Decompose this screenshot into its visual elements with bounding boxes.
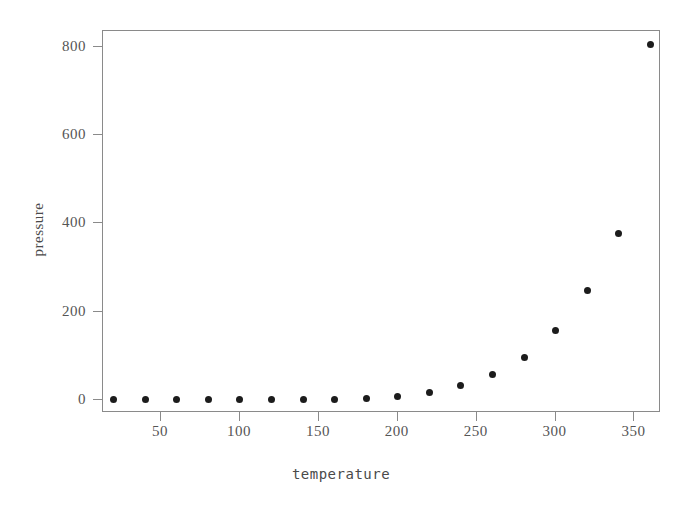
x-axis-tick-mark: [318, 412, 319, 421]
data-points-layer: [103, 31, 659, 411]
y-axis-tick-mark: [93, 46, 102, 47]
x-axis-tick-mark: [239, 412, 240, 421]
x-axis-tick-label: 350: [621, 423, 645, 440]
y-axis-tick-mark: [93, 134, 102, 135]
data-point: [205, 396, 212, 403]
y-axis-tick-label: 600: [62, 126, 86, 143]
data-point: [331, 396, 338, 403]
data-point: [552, 327, 559, 334]
data-point: [173, 396, 180, 403]
x-axis-tick-mark: [397, 412, 398, 421]
x-axis-label: temperature: [0, 466, 682, 482]
data-point: [457, 382, 464, 389]
y-axis-tick-label: 0: [78, 390, 86, 407]
data-point: [300, 396, 307, 403]
y-axis-tick-mark: [93, 399, 102, 400]
y-axis-tick-mark: [93, 222, 102, 223]
data-point: [236, 396, 243, 403]
x-axis-tick-label: 100: [227, 423, 251, 440]
x-axis-tick-label: 50: [152, 423, 168, 440]
data-point: [363, 395, 370, 402]
y-axis-label: pressure: [30, 170, 47, 290]
data-point: [110, 396, 117, 403]
data-point: [584, 287, 591, 294]
x-axis-tick-label: 250: [464, 423, 488, 440]
y-axis-tick-mark: [93, 311, 102, 312]
data-point: [268, 396, 275, 403]
x-axis-tick-label: 300: [543, 423, 567, 440]
data-point: [142, 396, 149, 403]
data-point: [394, 393, 401, 400]
x-axis-tick-mark: [633, 412, 634, 421]
y-axis-tick-label: 400: [62, 214, 86, 231]
data-point: [647, 41, 654, 48]
x-axis-tick-mark: [476, 412, 477, 421]
x-axis-tick-label: 200: [385, 423, 409, 440]
data-point: [426, 389, 433, 396]
plot-area-frame: [102, 30, 660, 412]
data-point: [489, 371, 496, 378]
x-axis-tick-mark: [555, 412, 556, 421]
scatter-plot-figure: 0200400600800 50100150200250300350 tempe…: [0, 0, 682, 514]
y-axis-tick-label: 200: [62, 302, 86, 319]
x-axis-tick-label: 150: [306, 423, 330, 440]
x-axis-tick-mark: [160, 412, 161, 421]
data-point: [521, 354, 528, 361]
y-axis-tick-label: 800: [62, 37, 86, 54]
data-point: [615, 230, 622, 237]
